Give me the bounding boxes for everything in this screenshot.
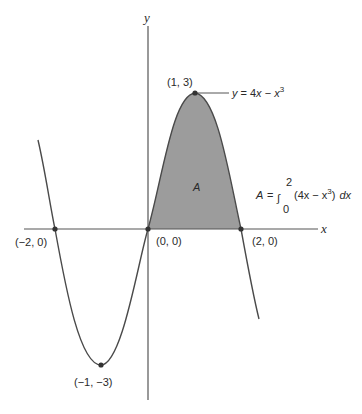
label-local-max: (1, 3) <box>167 76 193 88</box>
y-axis-label: y <box>142 10 150 25</box>
point-local-max <box>192 90 197 95</box>
integrand-body: (4x − x <box>294 189 328 201</box>
formula-dx: dx <box>339 189 351 201</box>
label-origin: (0, 0) <box>156 235 182 247</box>
label-two-zero: (2, 0) <box>252 235 278 247</box>
point-two-zero <box>238 226 243 231</box>
formula-lhs: A <box>255 189 263 201</box>
curve-eq-y: y <box>231 87 239 99</box>
label-local-min: (−1, −3) <box>74 376 113 388</box>
curve-eq-exponent: 3 <box>280 85 285 94</box>
point-local-min <box>98 362 103 367</box>
point-origin <box>145 226 150 231</box>
integral-lower-limit: 0 <box>283 203 289 215</box>
formula-integrand: (4x − x3)dx <box>294 187 352 201</box>
label-neg-two-zero: (−2, 0) <box>15 236 47 248</box>
point-neg-two-zero <box>52 226 57 231</box>
area-formula: A = ∫ 2 0 (4x − x3)dx <box>255 176 352 215</box>
curve-equation-label: y= 4x − x3 <box>231 85 285 99</box>
graph-canvas: y x (−2, 0) (0, 0) (2, 0) (1, 3) (−1, −3… <box>0 0 362 414</box>
formula-equals: = <box>267 189 273 201</box>
curve-eq-minus: − <box>262 87 275 99</box>
integral-upper-limit: 2 <box>286 176 292 188</box>
region-label-a: A <box>192 181 200 193</box>
x-axis-label: x <box>320 221 327 236</box>
curve-eq-equals: = 4 <box>241 87 257 99</box>
integrand-close: ) <box>332 189 336 201</box>
integral-sign: ∫ <box>276 192 281 205</box>
